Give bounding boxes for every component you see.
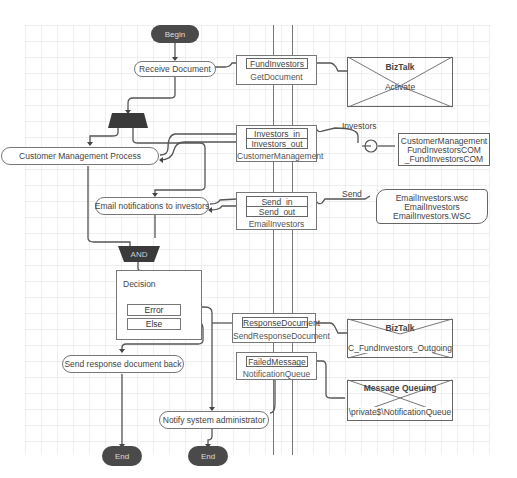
port-send-response-document[interactable]: ResponseDocument SendResponseDocument [232,313,316,343]
impl-kind: BizTalk [348,323,452,333]
decision-title: Decision [123,279,156,289]
and-join-label: AND [124,248,154,260]
message-failed-message[interactable]: FailedMessage [246,356,308,367]
connector-label-investors: Investors [342,121,377,131]
impl-text: \private$\NotificationQueue [348,407,452,417]
impl-message-queuing[interactable]: Message Queuing \private$\NotificationQu… [347,380,453,421]
end-node-2[interactable]: End [188,446,228,466]
end-node-1[interactable]: End [102,446,142,466]
action-receive-document[interactable]: Receive Document [134,61,216,77]
impl-kind: Message Queuing [348,383,452,393]
port-name: SendResponseDocument [233,331,315,341]
port-email-investors[interactable]: Send_in Send_out EmailInvestors [236,192,317,230]
message-response-document[interactable]: ResponseDocument [242,317,308,328]
port-get-document[interactable]: FundInvestors GetDocument [236,55,317,85]
message-fund-investors[interactable]: FundInvestors [246,58,308,69]
action-notify-admin[interactable]: Notify system administrator [159,411,269,429]
port-name: GetDocument [237,72,316,82]
impl-biztalk-activate[interactable]: BizTalk Activate [347,57,453,107]
impl-web-service[interactable]: EmailInvestors.wsc EmailInvestors EmailI… [376,189,488,224]
port-name: CustomerManagement [237,151,316,161]
message-investors-out[interactable]: Investors_out [246,138,308,149]
begin-node[interactable]: Begin [151,25,199,43]
impl-line: EmailInvestors.WSC [377,211,487,221]
port-name: EmailInvestors [237,219,316,229]
impl-text: C_FundInvestors_Outgoing [348,343,452,353]
port-customer-management[interactable]: Investors_in Investors_out CustomerManag… [236,125,317,162]
port-name: NotificationQueue [237,369,316,379]
impl-kind: BizTalk [348,62,452,72]
action-email-notifications[interactable]: Email notifications to investors [95,197,209,215]
decision-block[interactable]: Decision Error Else [116,270,202,340]
decision-branch-error[interactable]: Error [127,304,181,316]
action-send-response[interactable]: Send response document back [62,355,184,373]
impl-biztalk-outgoing[interactable]: BizTalk C_FundInvestors_Outgoing [347,319,453,358]
fork-bar [108,113,148,128]
diagram-canvas: Begin Receive Document Customer Manageme… [0,0,517,478]
message-send-out[interactable]: Send_out [246,206,308,217]
port-notification-queue[interactable]: FailedMessage NotificationQueue [236,352,317,380]
impl-com-component[interactable]: CustomerManagement FundInvestorsCOM _Fun… [398,133,490,166]
connector-label-send: Send [342,189,362,199]
impl-text: Activate [348,82,452,92]
action-customer-management[interactable]: Customer Management Process [1,147,159,165]
decision-branch-else[interactable]: Else [127,318,181,330]
impl-line: _FundInvestorsCOM [399,154,489,164]
